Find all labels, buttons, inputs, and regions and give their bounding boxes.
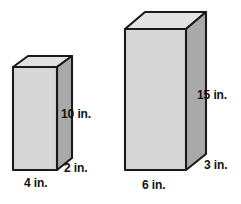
geometry-figure-canvas: 10 in. 2 in. 4 in. 15 in. 3 in. 6 in.: [0, 0, 241, 204]
small-prism-front-face: [13, 67, 57, 170]
small-prism-width-label: 4 in.: [24, 177, 48, 190]
large-prism-height-label: 15 in.: [197, 89, 227, 102]
small-prism-height-label: 10 in.: [61, 108, 91, 121]
prisms-illustration: [0, 0, 241, 204]
large-prism-front-face: [125, 29, 186, 170]
large-prism: [125, 12, 206, 170]
large-prism-width-label: 6 in.: [142, 179, 166, 192]
small-prism-depth-label: 2 in.: [64, 162, 88, 175]
large-prism-depth-label: 3 in.: [204, 159, 228, 172]
